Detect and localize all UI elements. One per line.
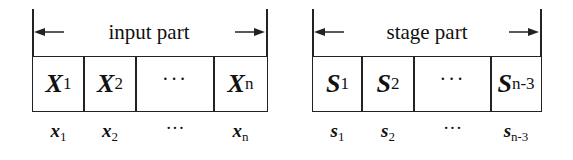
value-var: s: [504, 120, 511, 141]
value-sub: 2: [112, 129, 119, 144]
stage-right-bracket: [540, 9, 542, 57]
cell-var: X: [97, 69, 114, 99]
input-cell-x1: X1: [32, 56, 85, 112]
stage-cell-s2: S2: [361, 56, 415, 112]
input-value-x1: x1: [32, 120, 85, 145]
stage-cell-s1: S1: [312, 56, 363, 112]
cell-var: X: [46, 69, 63, 99]
input-part-label: input part: [84, 22, 214, 43]
stage-part-label: stage part: [362, 22, 492, 43]
cell-sub: 2: [114, 74, 123, 94]
cell-sub: 1: [63, 74, 72, 94]
cell-sub: 2: [391, 74, 400, 94]
cell-var: S: [497, 69, 511, 99]
value-sub: 2: [388, 129, 395, 144]
ellipsis: ···: [440, 68, 466, 91]
cell-sub: n-3: [512, 74, 535, 94]
ellipsis: ···: [443, 117, 462, 138]
input-value-ellipsis: ···: [135, 117, 215, 139]
cell-sub: 1: [340, 74, 349, 94]
stage-cell-ellipsis: ···: [413, 56, 492, 112]
stage-value-ellipsis: ···: [413, 117, 492, 139]
cell-var: S: [326, 69, 340, 99]
value-var: s: [331, 120, 338, 141]
right-arrow-icon: [234, 25, 266, 39]
input-cell-xn: Xn: [213, 56, 268, 112]
left-arrow-icon: [313, 25, 345, 39]
stage-value-s2: s2: [361, 120, 415, 145]
value-sub: 1: [60, 129, 67, 144]
left-arrow-icon: [33, 25, 65, 39]
stage-value-s1: s1: [312, 120, 363, 145]
value-sub: n: [242, 129, 249, 144]
value-var: x: [233, 120, 243, 141]
cell-sub: n: [245, 74, 254, 94]
input-value-xn: xn: [213, 120, 268, 145]
stage-cell-sn-3: Sn-3: [490, 56, 542, 112]
value-sub: n-3: [511, 129, 528, 144]
value-sub: 1: [338, 129, 345, 144]
value-var: x: [51, 120, 61, 141]
input-cell-x2: X2: [83, 56, 137, 112]
input-value-x2: x2: [83, 120, 137, 145]
value-var: x: [102, 120, 112, 141]
cell-var: S: [377, 69, 391, 99]
ellipsis: ···: [166, 117, 185, 138]
input-right-bracket: [266, 9, 268, 57]
right-arrow-icon: [508, 25, 540, 39]
input-cell-ellipsis: ···: [135, 56, 215, 112]
ellipsis: ···: [162, 68, 188, 91]
cell-var: X: [228, 69, 245, 99]
stage-value-sn-3: sn-3: [490, 120, 542, 145]
